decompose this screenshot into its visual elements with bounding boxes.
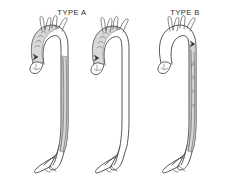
aortic-dissection-figure: TYPE A TYPE B: [0, 0, 228, 181]
figure-canvas: TYPE A TYPE B: [0, 0, 228, 181]
aorta-diagram-type-a-variant-1: [30, 16, 68, 173]
panel-label-type-b: TYPE B: [170, 8, 200, 17]
panel-label-type-a: TYPE A: [57, 8, 87, 17]
aorta-diagram-type-b: [158, 16, 196, 173]
aorta-diagram-type-a-variant-2: [91, 17, 129, 173]
